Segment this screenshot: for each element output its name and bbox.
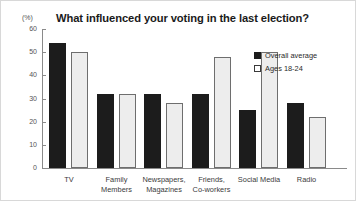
- chart-title: What influenced your voting in the last …: [56, 12, 341, 24]
- y-axis-tick: [42, 168, 46, 169]
- bar: [119, 94, 136, 168]
- legend-swatch-dark-icon: [254, 52, 261, 59]
- bar: [309, 117, 326, 168]
- bar: [287, 103, 304, 168]
- bar: [49, 43, 66, 168]
- chart-legend: Overall average Ages 18-24: [254, 50, 317, 76]
- legend-item-ages-18-24: Ages 18-24: [254, 63, 317, 74]
- y-axis-tick-label: 30: [19, 95, 37, 102]
- bar: [166, 103, 183, 168]
- x-axis-category-label: Radio: [274, 175, 340, 185]
- bar-group: [97, 29, 137, 168]
- legend-swatch-light-icon: [254, 65, 261, 72]
- x-axis-line: [42, 168, 347, 169]
- legend-label-ages-18-24: Ages 18-24: [265, 64, 303, 73]
- legend-item-overall-average: Overall average: [254, 50, 317, 61]
- y-axis-tick-label: 20: [19, 118, 37, 125]
- bar-group: [144, 29, 184, 168]
- bar-chart-figure: What influenced your voting in the last …: [0, 0, 356, 201]
- bar-group: [49, 29, 89, 168]
- y-axis-tick-label: 50: [19, 48, 37, 55]
- y-axis-tick-label: 60: [19, 25, 37, 32]
- bar-group: [192, 29, 232, 168]
- legend-label-overall-average: Overall average: [265, 51, 317, 60]
- bar: [239, 110, 256, 168]
- y-axis-tick-label: 40: [19, 71, 37, 78]
- y-axis-tick-label: 10: [19, 141, 37, 148]
- y-axis-tick-label: 0: [19, 164, 37, 171]
- bar: [71, 52, 88, 168]
- bar: [192, 94, 209, 168]
- bar: [144, 94, 161, 168]
- y-axis-unit-label: (%): [22, 14, 33, 21]
- bar: [97, 94, 114, 168]
- bar: [214, 57, 231, 168]
